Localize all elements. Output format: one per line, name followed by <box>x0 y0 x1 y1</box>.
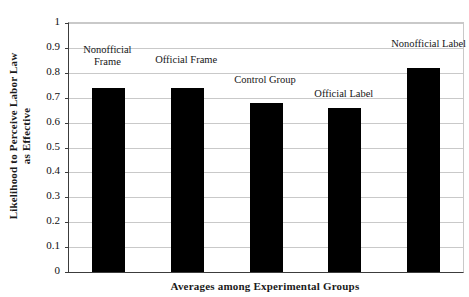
y-axis-tick-label: 0.4 <box>38 165 64 176</box>
y-axis-tick-mark <box>65 247 69 248</box>
gridline <box>69 98 463 99</box>
y-axis-tick-label: 0.1 <box>38 240 64 251</box>
y-axis-tick-mark <box>65 172 69 173</box>
y-axis-title-line-2: as Effective <box>20 53 33 220</box>
y-axis-title-line-1: Likelihood to Perceive Labor Law <box>7 53 20 220</box>
bar <box>407 68 440 272</box>
y-axis-tick-label: 0.8 <box>38 66 64 77</box>
y-axis-tick-mark <box>65 123 69 124</box>
y-axis-tick-label: 0.3 <box>38 190 64 201</box>
y-axis-tick-mark <box>65 197 69 198</box>
bar <box>92 88 125 272</box>
y-axis-tick-label: 0.2 <box>38 215 64 226</box>
bar-category-label: Official Label <box>301 88 387 100</box>
y-axis-tick-labels: 00.10.20.30.40.50.60.70.80.91 <box>38 0 64 297</box>
bar-label-line: Official Frame <box>143 54 229 66</box>
y-axis-tick-mark <box>65 148 69 149</box>
y-axis-tick-mark <box>65 272 69 273</box>
bar-label-line: Nonofficial <box>64 44 150 56</box>
y-axis-tick-mark <box>65 98 69 99</box>
y-axis-tick-label: 0.7 <box>38 91 64 102</box>
bar-category-label: Official Frame <box>143 54 229 66</box>
bar-category-label: NonofficialFrame <box>64 44 150 68</box>
y-axis-tick-mark <box>65 73 69 74</box>
bar <box>328 108 361 272</box>
bar-category-label: Nonofficial Label <box>386 38 469 50</box>
gridline <box>69 23 463 24</box>
chart-figure: Likelihood to Perceive Labor Law as Effe… <box>0 0 469 297</box>
y-axis-tick-mark <box>65 23 69 24</box>
y-axis-tick-label: 0.6 <box>38 116 64 127</box>
bar-label-line: Control Group <box>222 74 308 86</box>
bar-label-line: Nonofficial Label <box>386 38 469 50</box>
bar-label-line: Official Label <box>301 88 387 100</box>
bar-label-line: Frame <box>64 56 150 68</box>
bar <box>171 88 204 272</box>
y-axis-title: Likelihood to Perceive Labor Law as Effe… <box>0 0 40 272</box>
bar-category-label: Control Group <box>222 74 308 86</box>
y-axis-tick-label: 0.9 <box>38 41 64 52</box>
bar <box>250 103 283 272</box>
y-axis-tick-label: 0 <box>38 265 64 276</box>
y-axis-tick-label: 1 <box>38 16 64 27</box>
y-axis-tick-mark <box>65 222 69 223</box>
x-axis-title: Averages among Experimental Groups <box>68 280 462 292</box>
y-axis-tick-label: 0.5 <box>38 141 64 152</box>
